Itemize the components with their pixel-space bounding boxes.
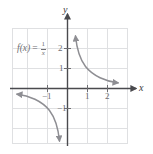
graph-canvas bbox=[0, 0, 153, 154]
fraction-one-over-x: 1x bbox=[41, 41, 47, 57]
function-argument: (x) bbox=[20, 44, 31, 54]
y-tick-label-2: 2 bbox=[58, 44, 63, 53]
function-equation-label: f(x)=1x bbox=[17, 41, 47, 57]
x-tick-label-neg1: −1 bbox=[42, 92, 52, 101]
curve-branch-positive bbox=[76, 36, 119, 83]
equals-sign: = bbox=[32, 44, 37, 54]
x-axis-label: x bbox=[139, 83, 143, 93]
curve-branch-negative bbox=[17, 94, 60, 141]
function-graph-figure: f(x)=1x x y −1 1 2 −1 1 2 bbox=[0, 0, 153, 154]
y-axis-label: y bbox=[63, 5, 67, 15]
x-tick-label-2: 2 bbox=[105, 92, 110, 101]
x-tick-label-1: 1 bbox=[85, 92, 90, 101]
y-tick-label-1: 1 bbox=[59, 64, 64, 73]
fraction-numerator: 1 bbox=[41, 41, 47, 48]
fraction-denominator: x bbox=[41, 50, 46, 57]
y-tick-label-neg1: −1 bbox=[57, 104, 67, 113]
